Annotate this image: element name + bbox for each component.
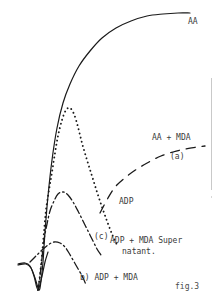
series-label-b: b) ADP + MDA (80, 273, 138, 283)
series-label-adp: ADP (119, 197, 133, 207)
chart-series-adp-mda (30, 242, 86, 285)
series-label-c: (c) (94, 232, 108, 242)
series-label-aa: AA (188, 17, 198, 27)
page-edge-artifact (211, 78, 212, 190)
chart-series-aa-mda (100, 146, 205, 213)
figure-caption: fig.3 (175, 282, 199, 292)
series-label-natant: natant. (122, 247, 156, 257)
aggregometry-figure: AA AA + MDA (a) ADP (c) ADP + MDA Super … (0, 0, 220, 301)
chart-plot-area (0, 0, 220, 301)
series-label-a: (a) (170, 152, 184, 162)
chart-series-adp (38, 108, 117, 290)
series-label-adp-mda-supernatant: ADP + MDA Super (110, 236, 182, 246)
series-label-aa-mda: AA + MDA (152, 133, 191, 143)
page-edge-artifact-2 (211, 196, 212, 198)
